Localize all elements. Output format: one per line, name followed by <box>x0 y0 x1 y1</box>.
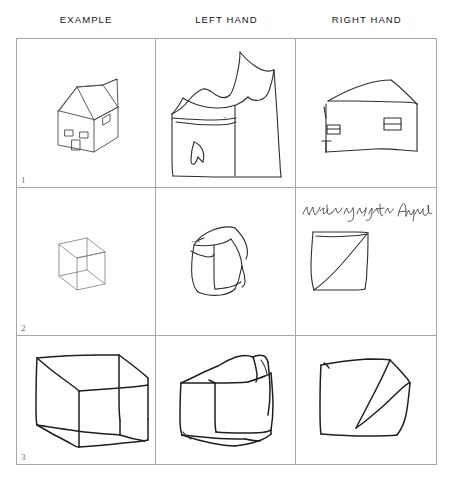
cube-wireframe-example <box>17 188 155 335</box>
cell-row1-left-hand <box>156 39 296 187</box>
column-header-right-hand: RIGHT HAND <box>297 8 437 32</box>
comparison-grid: 1 <box>16 38 437 465</box>
cell-row3-example: 3 <box>17 336 156 464</box>
row-number-1: 1 <box>21 176 26 185</box>
table-row: 1 <box>17 39 436 188</box>
column-header-left-hand: LEFT HAND <box>156 8 296 32</box>
cell-row1-right-hand <box>296 39 436 187</box>
house-left-hand-copy <box>156 39 295 187</box>
drawing-comparison-sheet: EXAMPLE LEFT HAND RIGHT HAND <box>0 0 451 481</box>
cell-row1-example: 1 <box>17 39 156 187</box>
column-header-example: EXAMPLE <box>16 8 156 32</box>
cell-row3-left-hand <box>156 336 296 464</box>
house-right-hand-copy <box>296 39 436 187</box>
table-row: 2 <box>17 188 436 336</box>
house-3d-example <box>17 39 155 187</box>
cube-left-hand-copy <box>156 188 295 335</box>
large-cube-left-hand-copy <box>156 336 295 464</box>
row-number-3: 3 <box>21 453 26 462</box>
cell-row2-example: 2 <box>17 188 156 335</box>
column-header-row: EXAMPLE LEFT HAND RIGHT HAND <box>16 8 437 32</box>
large-cube-wireframe-example <box>17 336 155 464</box>
cube-right-hand-copy <box>296 188 436 335</box>
table-row: 3 <box>17 336 436 464</box>
cell-row3-right-hand <box>296 336 436 464</box>
cell-row2-left-hand <box>156 188 296 335</box>
cell-row2-right-hand <box>296 188 436 335</box>
row-number-2: 2 <box>21 324 26 333</box>
large-cube-right-hand-copy <box>296 336 436 464</box>
